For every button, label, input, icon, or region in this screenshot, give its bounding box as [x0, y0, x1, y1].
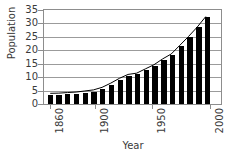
bar: [91, 92, 96, 104]
gridline: [44, 64, 221, 65]
x-axis-tick-mark: [210, 105, 211, 109]
gridline: [44, 37, 221, 38]
bar: [65, 94, 70, 104]
gridline: [44, 77, 221, 78]
bar: [144, 70, 149, 104]
gridline: [44, 23, 221, 24]
x-axis-tick-label: 1860: [54, 108, 65, 142]
y-axis-tick-label: 5: [18, 86, 38, 96]
y-axis-tick-label: 15: [18, 59, 38, 69]
x-axis-tick-label: 1900: [99, 108, 110, 142]
gridline: [44, 50, 221, 51]
bar: [179, 46, 184, 104]
bar: [187, 37, 192, 104]
bar: [48, 95, 53, 104]
bar: [170, 55, 175, 104]
trend-line: [44, 10, 221, 104]
y-axis-tick-label: 20: [18, 45, 38, 55]
bar: [56, 95, 61, 104]
bar: [205, 17, 210, 104]
gridline: [44, 91, 221, 92]
x-axis-tick-label: 2000: [214, 108, 225, 142]
y-axis-tick-label: 0: [18, 99, 38, 109]
y-axis-title: Population: [5, 0, 19, 71]
bar: [109, 85, 114, 104]
x-axis-tick-mark: [95, 105, 96, 109]
y-axis-tick-label: 30: [18, 18, 38, 28]
bar: [118, 80, 123, 104]
bar: [196, 27, 201, 104]
x-axis-tick-label: 1950: [156, 108, 167, 142]
x-axis-tick-mark: [50, 105, 51, 109]
bar: [126, 76, 131, 104]
y-axis-tick-label: 10: [18, 72, 38, 82]
bar: [135, 74, 140, 104]
bar: [83, 93, 88, 104]
y-axis-tick-label: 35: [18, 5, 38, 15]
bar: [152, 66, 157, 104]
plot-area: [43, 9, 222, 105]
x-axis-title: Year: [44, 140, 222, 151]
bar: [74, 94, 79, 104]
x-axis-tick-mark: [152, 105, 153, 109]
y-axis-tick-label: 25: [18, 32, 38, 42]
bar: [100, 89, 105, 104]
population-bar-chart: Population 05101520253035 18601900195020…: [0, 0, 231, 158]
bar: [161, 60, 166, 104]
